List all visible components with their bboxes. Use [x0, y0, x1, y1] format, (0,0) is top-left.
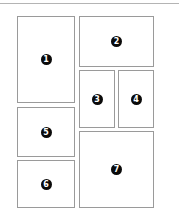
panel-2: 2 — [79, 16, 154, 67]
number-badge-4: 4 — [131, 94, 142, 105]
number-badge-6: 6 — [41, 179, 52, 190]
panel-5: 5 — [17, 107, 75, 157]
number-badge-3: 3 — [92, 94, 103, 105]
panel-3: 3 — [79, 70, 115, 128]
number-badge-7: 7 — [111, 164, 122, 175]
number-badge-1: 1 — [41, 54, 52, 65]
panel-4: 4 — [118, 70, 154, 128]
number-badge-5: 5 — [41, 127, 52, 138]
panel-1: 1 — [17, 16, 75, 103]
panel-7: 7 — [79, 131, 154, 208]
panel-6: 6 — [17, 160, 75, 208]
top-divider-line — [0, 3, 179, 4]
number-badge-2: 2 — [111, 36, 122, 47]
